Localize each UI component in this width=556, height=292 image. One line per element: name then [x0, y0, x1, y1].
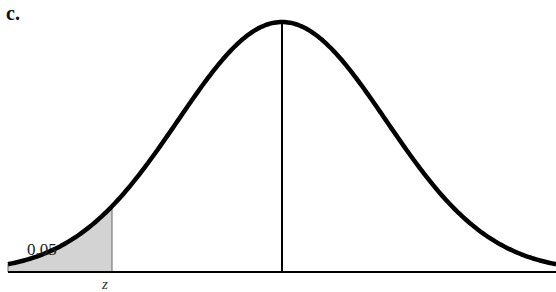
panel-label: c.	[6, 2, 20, 25]
normal-curve-chart	[0, 0, 556, 292]
z-tick-label: z	[102, 276, 108, 292]
tail-area-label: 0.05	[27, 240, 57, 260]
